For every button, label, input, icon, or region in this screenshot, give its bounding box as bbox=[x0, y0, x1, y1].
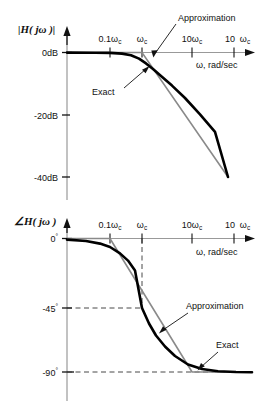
magnitude-x-axis-label: ω, rad/sec bbox=[196, 60, 238, 70]
magnitude-xtick2-main: 10ω bbox=[182, 34, 199, 44]
magnitude-xtick-label-10wc: 10ωc bbox=[182, 34, 203, 45]
magnitude-xtick2-sub: c bbox=[199, 38, 203, 45]
phase-ytick-minus90deg: -90° bbox=[42, 367, 58, 378]
phase-xtick-label-100: 10 bbox=[225, 220, 235, 230]
phase-y-axis-title: ∠H( jω ) bbox=[14, 215, 56, 228]
phase-xtick1-main: ω bbox=[137, 220, 144, 230]
magnitude-xtick1-main: ω bbox=[137, 34, 144, 44]
phase-bode-plot: ∠H( jω ) 0° -45° -90° 0.1ωc ωc 10ωc 10 bbox=[0, 205, 269, 413]
phase-xtick-label-0.1wc: 0.1ωc bbox=[99, 220, 123, 231]
phase-xtick2-main: 10ω bbox=[182, 220, 199, 230]
phase-xtick-label-10wc: 10ωc bbox=[182, 220, 203, 231]
magnitude-bode-plot: |H( jω )| 0dB -20dB -40dB 0.1ωc ωc 10ωc bbox=[0, 0, 269, 205]
phase-exact-annotation: Exact bbox=[198, 340, 240, 371]
phase-approximation-annotation: Approximation bbox=[159, 301, 244, 334]
svg-text:ωc: ωc bbox=[137, 34, 148, 45]
magnitude-xtick3-main: 10 bbox=[225, 34, 235, 44]
magnitude-ytick-minus40db: -40dB bbox=[34, 173, 58, 183]
phase-plot-svg: ∠H( jω ) 0° -45° -90° 0.1ωc ωc 10ωc 10 bbox=[0, 205, 269, 413]
phase-y-ticks bbox=[62, 239, 74, 373]
phase-xtick0-main: 0.1ω bbox=[99, 220, 119, 230]
phase-xtick1-sub: c bbox=[144, 224, 148, 231]
exact-label-phase: Exact bbox=[216, 340, 239, 350]
magnitude-xtick-label-100wc: 10 ωc bbox=[225, 34, 251, 45]
svg-text:ωc: ωc bbox=[240, 34, 251, 45]
exact-label-magnitude: Exact bbox=[92, 87, 115, 97]
phase-xtick-label-100wc: ωc bbox=[240, 220, 251, 231]
phase-xtick4-sub: c bbox=[247, 224, 251, 231]
phase-ytick-minus45deg: -45° bbox=[42, 303, 58, 314]
magnitude-ytick-0db: 0dB bbox=[42, 48, 58, 58]
magnitude-y-axis-title: |H( jω )| bbox=[18, 23, 55, 36]
svg-text:10ωc: 10ωc bbox=[182, 34, 203, 45]
phase-xtick-label-wc: ωc bbox=[137, 220, 148, 231]
phase-xtick2-sub: c bbox=[199, 224, 203, 231]
phase-ytick0-deg: ° bbox=[55, 233, 58, 240]
svg-text:0.1ωc: 0.1ωc bbox=[99, 34, 123, 45]
phase-ytick1-main: -45 bbox=[42, 304, 55, 314]
magnitude-exact-curve bbox=[67, 53, 228, 177]
phase-ytick2-main: -90 bbox=[42, 368, 55, 378]
phase-y-axis bbox=[63, 218, 70, 401]
approximation-label-magnitude: Approximation bbox=[178, 13, 236, 23]
magnitude-approximation-curve bbox=[67, 53, 228, 178]
approximation-label-phase: Approximation bbox=[186, 301, 244, 311]
magnitude-xtick0-sub: c bbox=[118, 38, 122, 45]
phase-ytick2-deg: ° bbox=[55, 367, 58, 374]
magnitude-xtick-label-wc: ωc bbox=[137, 34, 148, 45]
magnitude-xtick1-sub: c bbox=[144, 38, 148, 45]
magnitude-xtick0-main: 0.1ω bbox=[99, 34, 119, 44]
phase-x-axis-label: ω, rad/sec bbox=[196, 247, 238, 257]
phase-ytick1-deg: ° bbox=[55, 303, 58, 310]
magnitude-plot-svg: |H( jω )| 0dB -20dB -40dB 0.1ωc ωc 10ωc bbox=[0, 0, 269, 205]
bode-plot-figure: |H( jω )| 0dB -20dB -40dB 0.1ωc ωc 10ωc bbox=[0, 0, 269, 413]
phase-xtick4-main: ω bbox=[240, 220, 247, 230]
magnitude-ytick-minus20db: -20dB bbox=[34, 111, 58, 121]
phase-ytick-0deg: 0° bbox=[50, 233, 58, 244]
magnitude-xtick4-main: ω bbox=[240, 34, 247, 44]
magnitude-xtick4-sub: c bbox=[247, 38, 251, 45]
magnitude-exact-annotation: Exact bbox=[92, 66, 150, 97]
magnitude-xtick-label-0.1wc: 0.1ωc bbox=[99, 34, 123, 45]
phase-xtick0-sub: c bbox=[118, 224, 122, 231]
